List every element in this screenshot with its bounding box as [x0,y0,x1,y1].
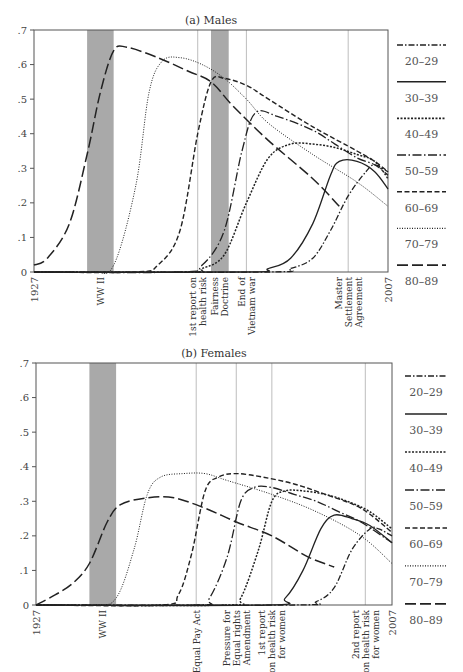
y-tick-label: .6 [17,59,27,70]
event-label: Fairness [210,277,220,316]
y-tick-label: .1 [17,232,27,243]
y-tick-label: .1 [19,565,29,576]
legend: 20–2930–3940–4950–5960–6970–7980–89 [397,45,446,288]
males-panel: (a) Males0.1.2.3.4.5.6.719272007WW IIFai… [17,14,446,337]
event-label: WW II [98,610,108,639]
legend-label: 40–49 [409,462,443,475]
legend-label: 60–69 [405,202,439,215]
legend-label: 30–39 [409,424,443,437]
event-label: Pressure for [222,609,232,666]
y-tick-label: .5 [19,427,29,438]
event-label: Vietnam war [247,276,257,336]
y-tick-label: .4 [19,461,29,472]
panel-title: (b) Females [181,347,247,360]
y-tick-label: .3 [17,163,27,174]
event-label: on health risk [361,609,371,672]
legend-label: 80–89 [409,614,443,627]
event-label: Amendment [242,610,252,667]
y-tick-label: .3 [19,496,29,507]
y-tick-label: .2 [19,530,29,541]
event-label: WW II [96,277,106,306]
x-tick-label: 1927 [31,610,42,635]
event-label: Doctrine [220,277,230,317]
shaded-period [89,363,116,605]
y-tick-label: .4 [17,128,27,139]
series-line [36,497,334,605]
females-panel: (b) Females0.1.2.3.4.5.6.719272007WW IIE… [19,347,447,672]
x-tick-label: 2007 [383,277,394,302]
y-tick-label: 0 [21,267,27,278]
legend-label: 60–69 [409,538,443,551]
event-label: End of [237,276,247,306]
shaded-period [211,30,229,272]
legend-label: 30–39 [405,92,439,105]
panel-title: (a) Males [185,14,237,27]
event-label: for women [371,610,381,659]
event-label: 1st report on [188,277,198,337]
legend-label: 50–59 [405,165,439,178]
y-tick-label: .7 [19,358,29,369]
chart-canvas: (a) Males0.1.2.3.4.5.6.719272007WW IIFai… [0,0,463,672]
event-label: 2nd report [351,610,361,659]
x-tick-label: 2007 [387,610,398,635]
y-tick-label: .7 [17,25,27,36]
event-label: 1st report [257,610,267,656]
x-tick-label: 1927 [29,277,40,302]
event-label: Master [334,276,344,309]
legend-label: 20–29 [405,55,439,68]
legend-label: 80–89 [405,275,439,288]
event-label: Agreement [354,277,364,329]
event-label: Equal Pay Act [192,610,202,672]
y-tick-label: .2 [17,197,27,208]
legend-label: 70–79 [409,576,443,589]
series-line [34,46,339,265]
legend: 20–2930–3940–4950–5960–6970–7980–89 [405,376,447,627]
event-label: health risk [198,276,208,325]
event-label: Equal rights [232,610,242,667]
legend-label: 50–59 [409,500,443,513]
event-label: for women [277,610,287,659]
event-label: Settlement [344,277,354,328]
y-tick-label: .5 [17,94,27,105]
legend-label: 20–29 [409,386,443,399]
shaded-period [87,30,114,272]
legend-label: 70–79 [405,238,439,251]
y-tick-label: .6 [19,392,29,403]
legend-label: 40–49 [405,128,439,141]
event-label: on health risk [267,609,277,672]
y-tick-label: 0 [23,600,29,611]
